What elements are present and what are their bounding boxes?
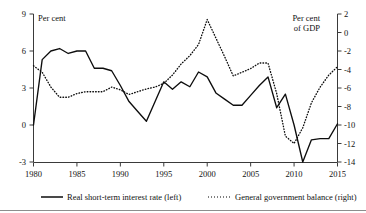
tick-label: -2 <box>344 46 351 56</box>
tick-label: -14 <box>344 157 356 167</box>
tick-label: -12 <box>344 139 355 149</box>
tick-label: -10 <box>344 120 355 130</box>
tick-label: 1985 <box>68 169 85 179</box>
tick-label: 6 <box>22 46 26 56</box>
series-real-short-term-interest-rate <box>34 49 338 162</box>
left-axis-title: Per cent <box>38 13 66 23</box>
legend-label-dotted: General government balance (right) <box>235 192 357 202</box>
chart-figure: Per cent Per cent of GDP 9630-3 20-2-4-6… <box>0 0 366 213</box>
tick-label: 0 <box>22 120 26 130</box>
tick-label: 9 <box>22 9 26 19</box>
tick-label: 3 <box>22 83 26 93</box>
tick-label: 2015 <box>329 169 346 179</box>
tick-label: 0 <box>344 28 348 38</box>
tick-label: -6 <box>344 83 351 93</box>
right-axis-ticks: 20-2-4-6-8-10-12-14 <box>338 9 357 167</box>
tick-label: 2000 <box>199 169 216 179</box>
tick-label: 2010 <box>286 169 303 179</box>
tick-label: 2 <box>344 9 348 19</box>
left-axis-ticks: 9630-3 <box>19 9 34 167</box>
tick-label: -3 <box>19 157 26 167</box>
series-general-government-balance <box>34 20 338 144</box>
tick-label: -4 <box>344 65 352 75</box>
tick-label: 2005 <box>242 169 259 179</box>
right-axis-title-line1: Per cent <box>292 13 320 23</box>
tick-label: 1995 <box>155 169 172 179</box>
line-chart: Per cent Per cent of GDP 9630-3 20-2-4-6… <box>0 0 366 213</box>
right-axis-title-line2: of GDP <box>294 23 320 33</box>
legend-label-solid: Real short-term interest rate (left) <box>67 192 181 202</box>
x-axis-ticks: 19801985199019952000200520102015 <box>25 163 346 180</box>
tick-label: -8 <box>344 102 351 112</box>
tick-label: 1980 <box>25 169 42 179</box>
tick-label: 1990 <box>112 169 129 179</box>
